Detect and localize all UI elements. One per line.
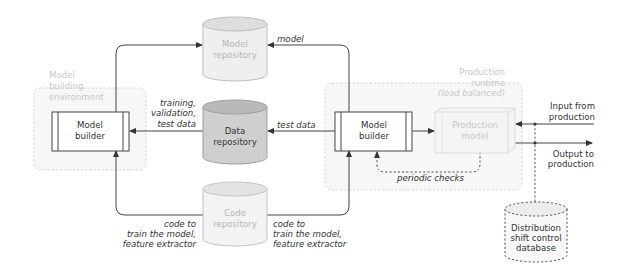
env-label-line: building xyxy=(49,81,83,91)
env-label-line: Production xyxy=(459,67,505,77)
node-label: repository xyxy=(213,50,256,60)
edge-label-output: Output to xyxy=(553,149,594,159)
edge-label-input: Input from xyxy=(550,101,595,111)
edge-label-code-left: code to xyxy=(164,219,196,229)
svg-text:Production: Production xyxy=(459,67,505,77)
edge-label-training: training, xyxy=(160,98,196,108)
edge-label-test-data: test data xyxy=(277,120,316,130)
svg-text:building: building xyxy=(49,81,83,91)
edge-label-input: production xyxy=(549,112,595,122)
node-label: repository xyxy=(213,137,256,147)
env-label-line: runtime xyxy=(471,78,505,88)
data-repository: Data repository xyxy=(203,100,267,164)
node-label: Model xyxy=(361,120,387,130)
edge-label-training: test data xyxy=(157,119,196,129)
node-label: shift control xyxy=(510,233,561,243)
svg-text:(load balanced): (load balanced) xyxy=(438,88,505,98)
node-label: database xyxy=(516,243,556,253)
model-builder-left: Model builder xyxy=(52,112,129,151)
svg-text:runtime: runtime xyxy=(471,78,505,88)
node-label: Code xyxy=(224,208,246,218)
node-label: model xyxy=(462,131,489,141)
edge-label-code-right: train the model, xyxy=(273,229,342,239)
edge-label-code-right: code to xyxy=(273,219,305,229)
edge-label-model: model xyxy=(277,34,304,44)
ml-architecture-diagram: Model building environment Production ru… xyxy=(0,0,625,278)
env-label-line: Model xyxy=(49,70,75,80)
node-label: Distribution xyxy=(511,223,561,233)
node-label: builder xyxy=(75,131,105,141)
node-label: repository xyxy=(213,219,256,229)
env-label-line: environment xyxy=(49,92,104,102)
production-model: Production model xyxy=(435,108,515,153)
distribution-shift-db: Distribution shift control database xyxy=(505,202,567,262)
node-label: Production xyxy=(452,120,498,130)
node-label: Model xyxy=(222,39,248,49)
node-label: Model xyxy=(77,120,103,130)
edge-label-code-left: feature extractor xyxy=(123,239,197,249)
node-label: builder xyxy=(359,131,389,141)
model-repository: Model repository xyxy=(203,17,267,81)
edge-label-code-left: train the model, xyxy=(127,229,196,239)
env-sublabel: (load balanced) xyxy=(438,88,505,98)
code-repository: Code repository xyxy=(203,182,267,246)
edge-label-output: production xyxy=(548,159,594,169)
svg-text:Model: Model xyxy=(49,70,75,80)
svg-text:environment: environment xyxy=(49,92,104,102)
edge-label-code-right: feature extractor xyxy=(273,239,347,249)
edge-label-periodic-checks: periodic checks xyxy=(396,173,464,183)
edge-label-training: validation, xyxy=(151,108,196,118)
model-builder-right: Model builder xyxy=(335,112,412,151)
node-label: Data xyxy=(225,126,246,136)
